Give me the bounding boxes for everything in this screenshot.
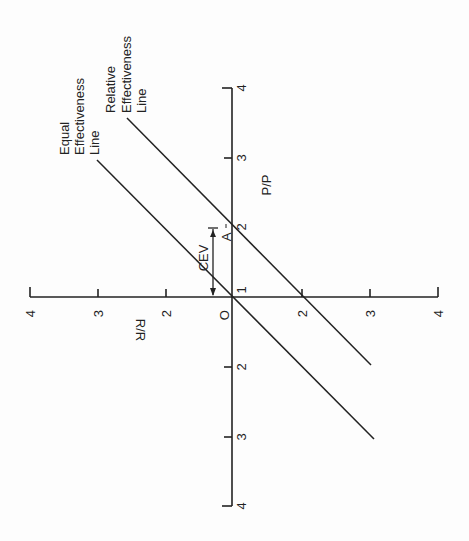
tick-p-lower-3: 3 — [234, 433, 249, 440]
diagram-canvas: 4 3 2 1 2 3 4 4 3 2 O 2 3 4 P/P R/R Equa… — [0, 0, 469, 541]
relative-label-line-3: Line — [134, 88, 149, 113]
equal-label-line-2: Effectiveness — [72, 77, 87, 155]
tick-p-lower-4: 4 — [234, 502, 249, 509]
equal-effectiveness-line — [97, 160, 374, 439]
tick-p-1: 1 — [234, 286, 249, 293]
equal-label-line-3: Line — [87, 130, 102, 155]
tick-r-right-3: 3 — [363, 310, 378, 317]
tick-r-left-2: 2 — [159, 310, 174, 317]
a-label: A — [219, 232, 234, 241]
tick-p-2: 2 — [234, 223, 249, 230]
relative-label-line-1: Relative — [103, 66, 118, 113]
tick-r-right-4: 4 — [431, 310, 446, 317]
equal-label-line-1: Equal — [57, 122, 72, 155]
tick-r-right-2: 2 — [295, 310, 310, 317]
tick-p-3: 3 — [234, 154, 249, 161]
tick-r-left-4: 4 — [23, 310, 38, 317]
tick-p-4: 4 — [234, 84, 249, 91]
relative-effectiveness-line — [127, 118, 371, 365]
axis-label-p: P/P — [259, 175, 274, 196]
relative-label-line-2: Effectiveness — [119, 35, 134, 113]
origin-label: O — [217, 310, 232, 320]
tick-p-lower-2: 2 — [234, 363, 249, 370]
tick-r-left-3: 3 — [91, 310, 106, 317]
axis-label-r: R/R — [133, 319, 148, 341]
diagram-svg: 4 3 2 1 2 3 4 4 3 2 O 2 3 4 P/P R/R Equa… — [0, 0, 469, 541]
cev-label: CEV — [196, 244, 211, 271]
